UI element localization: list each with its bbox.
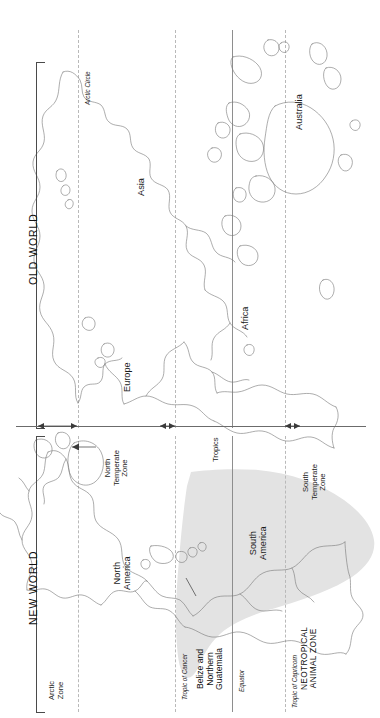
arctic-zone-line2: Zone [57, 681, 66, 700]
continent-label-north-america-line2: America [122, 556, 132, 590]
latitude-label-tropic-of-capricorn: Tropic of Capricorn [291, 655, 298, 708]
south-temperate-zone-span-arrows [285, 423, 300, 429]
climate-zone-label-north-temperate-zone: North Temperate Zone [104, 450, 130, 486]
highlight-label-neotropical-animal-zone: NEOTROPICAL ANIMAL ZONE [300, 627, 319, 690]
continent-label-south-america: South America [248, 526, 269, 560]
latitude-label-tropic-of-cancer: Tropic of Cancer [181, 654, 188, 700]
neotropical-line2: ANIMAL ZONE [309, 627, 318, 690]
belize-callout-leader [186, 578, 196, 596]
latitude-label-equator: Equator [238, 670, 245, 692]
continent-label-north-america-line1: North [112, 556, 122, 590]
zone-markers-layer [0, 0, 380, 718]
climate-zone-label-tropics: Tropics [212, 437, 221, 462]
south-temperate-line3: Zone [319, 464, 328, 500]
climate-zone-label-arctic-zone: Arctic Zone [48, 681, 65, 700]
callout-belize-northern-guatemala: Belize and Northern Guatemala [196, 648, 225, 690]
continent-label-asia: Asia [136, 178, 146, 196]
hemisphere-label-new-world: NEW WORLD [28, 550, 40, 625]
continent-label-europe: Europe [122, 362, 132, 392]
continent-label-australia-text: Australia [294, 94, 304, 130]
belize-callout-line3: Guatemala [215, 648, 225, 690]
continent-label-north-america: North America [112, 556, 133, 590]
continent-label-south-america-line1: South [248, 526, 258, 560]
continent-label-europe-text: Europe [122, 362, 132, 392]
north-temperate-zone-span-arrows [160, 423, 175, 429]
hemisphere-label-old-world: OLD WORLD [28, 213, 40, 285]
north-temperate-zone-leader [72, 444, 96, 451]
continent-label-australia: Australia [294, 94, 304, 130]
continent-label-africa: Africa [240, 307, 250, 331]
continent-label-asia-text: Asia [136, 178, 146, 196]
tropics-line1: Tropics [212, 437, 221, 462]
latitude-label-arctic-circle: Arctic Circle [84, 71, 91, 105]
north-temperate-line3: Zone [121, 450, 130, 486]
continent-label-africa-text: Africa [240, 307, 250, 331]
continent-label-south-america-line2: America [258, 526, 268, 560]
arctic-zone-span-arrows [38, 423, 77, 429]
climate-zone-label-south-temperate-zone: South Temperate Zone [302, 464, 328, 500]
world-map-figure: OLD WORLD NEW WORLD Arctic Circle Tropic… [0, 0, 380, 718]
